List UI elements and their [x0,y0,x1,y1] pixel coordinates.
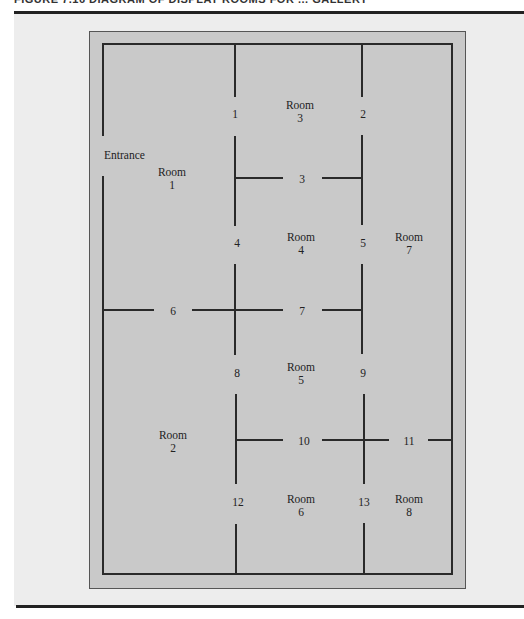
door-label-11: 11 [403,435,414,447]
figure: FIGURE 7.16 DIAGRAM OF DISPLAY ROOMS FOR… [0,0,524,619]
door-label-13: 13 [358,496,370,508]
door-label-3: 3 [299,173,305,185]
door-label-1: 1 [232,108,238,120]
gallery-floor-plan: Entrance Room1Room2Room3Room4Room5Room6R… [0,0,524,619]
door-label-4: 4 [234,237,240,249]
door-label-9: 9 [360,367,366,379]
door-label-8: 8 [234,367,240,379]
entrance-label: Entrance [104,149,145,161]
door-label-6: 6 [170,305,176,317]
bottom-rule [16,605,524,608]
door-label-2: 2 [360,108,366,120]
door-label-10: 10 [298,435,310,447]
door-label-7: 7 [299,305,305,317]
door-label-5: 5 [360,237,366,249]
top-rule [14,11,524,14]
door-label-12: 12 [232,496,244,508]
